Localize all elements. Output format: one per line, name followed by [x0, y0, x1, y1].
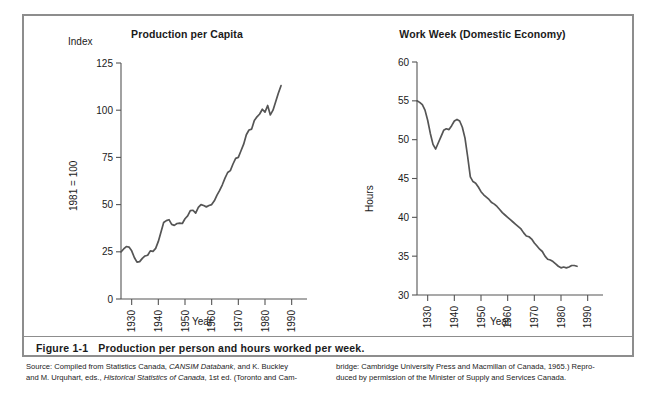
plot-area-right: 3035404550556019301940195019601970198019…: [340, 16, 636, 336]
source-note-line-2: and M. Urquhart, eds., Historical Statis…: [26, 373, 322, 384]
x-axis-tick-label: 1970: [233, 310, 244, 333]
y-axis-tick-label: 40: [398, 212, 410, 223]
figure-caption: Figure 1-1Production per person and hour…: [36, 342, 365, 354]
figure-frame: Production per Capita Index 1981 = 100 Y…: [22, 14, 634, 357]
y-axis-tick-label: 45: [398, 173, 410, 184]
source-note: Source: Compiled from Statistics Canada,…: [26, 362, 632, 384]
x-axis-tick-label: 1980: [556, 306, 567, 329]
figure-caption-number: Figure 1-1: [36, 342, 88, 354]
y-axis-tick-label: 30: [398, 290, 410, 301]
figure-caption-text: Production per person and hours worked p…: [98, 342, 364, 354]
x-axis-tick-label: 1950: [180, 310, 191, 333]
data-series-line: [417, 101, 577, 268]
source-note-line-3: bridge: Cambridge University Press and M…: [336, 362, 632, 373]
x-axis-tick-label: 1990: [286, 310, 297, 333]
y-axis-tick-label: 75: [102, 152, 114, 163]
x-axis-tick-label: 1990: [582, 306, 593, 329]
x-axis-tick-label: 1940: [449, 306, 460, 329]
source-note-column-1: Source: Compiled from Statistics Canada,…: [26, 362, 322, 384]
source-line2-part-a: and M. Urquhart, eds.,: [26, 373, 104, 382]
plot-area-left: 0255075100125193019401950196019701980199…: [32, 16, 332, 336]
y-axis-tick-label: 100: [96, 105, 113, 116]
x-axis-tick-label: 1950: [476, 306, 487, 329]
source-line2-part-c: , 1st ed. (Toronto and Cam-: [205, 373, 297, 382]
y-axis-tick-label: 55: [398, 95, 410, 106]
chart-production-per-capita: Production per Capita Index 1981 = 100 Y…: [32, 16, 332, 336]
y-axis-tick-label: 0: [107, 294, 113, 305]
y-axis-tick-label: 50: [398, 134, 410, 145]
source-note-line-1: Source: Compiled from Statistics Canada,…: [26, 362, 322, 373]
x-axis-tick-label: 1930: [422, 306, 433, 329]
y-axis-tick-label: 125: [96, 58, 113, 69]
x-axis-tick-label: 1940: [153, 310, 164, 333]
y-axis-tick-label: 35: [398, 251, 410, 262]
y-axis-tick-label: 25: [102, 246, 114, 257]
data-series-line: [121, 86, 281, 263]
caption-divider: [24, 336, 632, 337]
source-note-line-4: duced by permission of the Minister of S…: [336, 373, 632, 384]
y-axis-tick-label: 60: [398, 57, 410, 68]
chart-work-week: Work Week (Domestic Economy) Hours Year …: [340, 16, 636, 336]
source-note-column-2: bridge: Cambridge University Press and M…: [336, 362, 632, 384]
source-line1-part-c: , and K. Buckley: [233, 362, 288, 371]
x-axis-tick-label: 1970: [529, 306, 540, 329]
x-axis-tick-label: 1960: [206, 310, 217, 333]
y-axis-tick-label: 50: [102, 199, 114, 210]
x-axis-tick-label: 1930: [126, 310, 137, 333]
source-line1-part-b: CANSIM Databank: [169, 362, 233, 371]
x-axis-tick-label: 1980: [260, 310, 271, 333]
figure-page: Production per Capita Index 1981 = 100 Y…: [0, 0, 655, 393]
source-line2-part-b: Historical Statistics of Canada: [104, 373, 205, 382]
source-line1-part-a: Source: Compiled from Statistics Canada,: [26, 362, 169, 371]
x-axis-tick-label: 1960: [502, 306, 513, 329]
